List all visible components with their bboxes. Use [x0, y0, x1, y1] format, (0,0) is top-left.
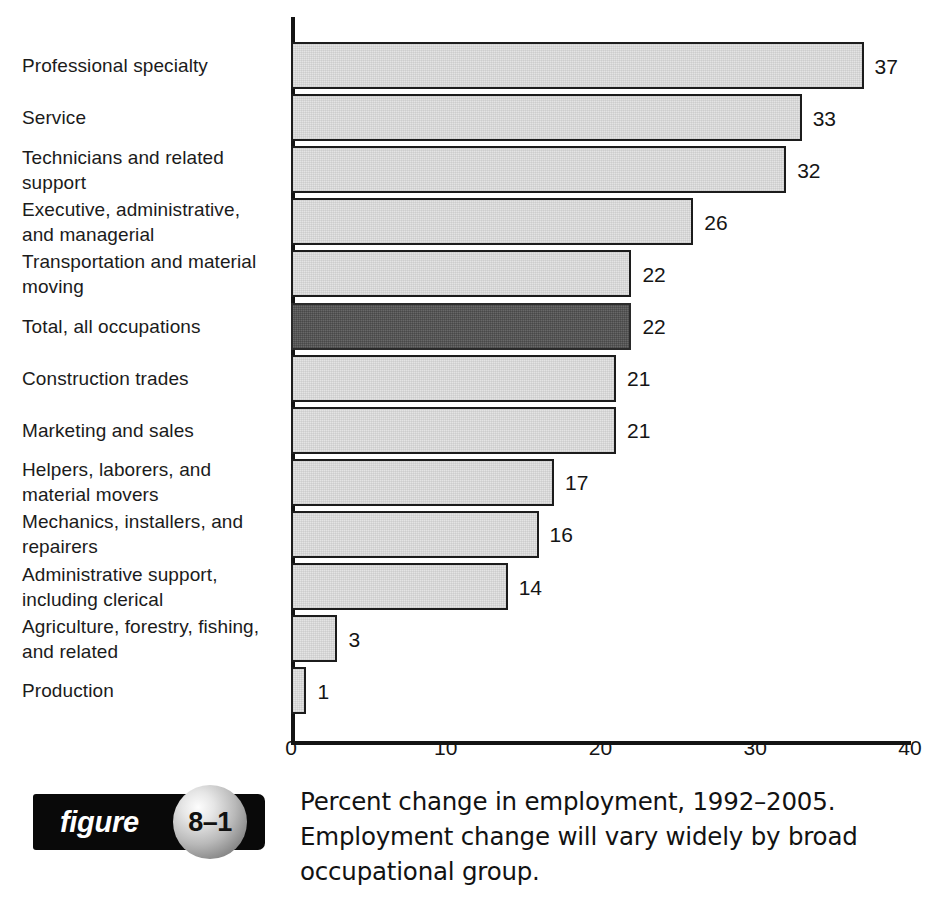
bar	[291, 459, 554, 506]
bar	[291, 407, 616, 454]
figure-badge-word: figure	[60, 805, 139, 839]
bar-value-label: 1	[317, 681, 329, 702]
figure-caption-block: figure 8–1 Percent change in employment,…	[0, 782, 945, 907]
category-label: Construction trades	[22, 366, 284, 391]
bar	[291, 250, 631, 297]
bar-value-label: 17	[565, 472, 588, 493]
bar	[291, 615, 337, 662]
bar-chart-figure: Professional specialtyServiceTechnicians…	[0, 0, 945, 780]
category-label: Helpers, laborers, and material movers	[22, 457, 284, 507]
category-label: Marketing and sales	[22, 418, 284, 443]
figure-badge-number: 8–1	[173, 785, 247, 859]
category-label: Professional specialty	[22, 53, 284, 78]
bar	[291, 667, 306, 714]
figure-caption-text: Percent change in employment, 1992–2005.…	[300, 784, 930, 889]
category-label: Technicians and related support	[22, 145, 284, 195]
figure-badge-sphere: 8–1	[173, 785, 247, 859]
figure-badge: figure 8–1	[33, 794, 265, 850]
bar	[291, 563, 508, 610]
x-tick-label: 0	[285, 736, 297, 760]
bar	[291, 42, 864, 89]
bar	[291, 94, 802, 141]
bar-value-label: 33	[813, 108, 836, 129]
category-label: Agriculture, forestry, fishing, and rela…	[22, 614, 284, 664]
bar-value-label: 22	[642, 316, 665, 337]
plot-area: 373332262222212117161431	[291, 17, 911, 745]
bar-value-label: 3	[348, 629, 360, 650]
bar-value-label: 26	[704, 212, 727, 233]
x-tick-label: 30	[744, 736, 767, 760]
bar-value-label: 21	[627, 368, 650, 389]
caption-line: Employment change will vary widely by br…	[300, 819, 930, 854]
bar-value-label: 21	[627, 420, 650, 441]
category-label: Transportation and material moving	[22, 249, 284, 299]
bar-value-label: 22	[642, 264, 665, 285]
category-label: Mechanics, installers, and repairers	[22, 509, 284, 559]
bar	[291, 511, 539, 558]
caption-line: Percent change in employment, 1992–2005.	[300, 784, 930, 819]
x-tick-label: 40	[898, 736, 921, 760]
category-label: Total, all occupations	[22, 314, 284, 339]
bar	[291, 303, 631, 350]
bar-value-label: 32	[797, 160, 820, 181]
category-label: Executive, administrative, and manageria…	[22, 197, 284, 247]
caption-line: occupational group.	[300, 854, 930, 889]
bar	[291, 355, 616, 402]
bar	[291, 146, 786, 193]
category-label: Service	[22, 105, 284, 130]
category-label: Administrative support, including cleric…	[22, 562, 284, 612]
bar-value-label: 37	[875, 56, 898, 77]
x-tick-label: 10	[434, 736, 457, 760]
bar	[291, 198, 693, 245]
x-tick-label: 20	[589, 736, 612, 760]
bar-value-label: 14	[519, 577, 542, 598]
bar-value-label: 16	[550, 524, 573, 545]
category-label: Production	[22, 678, 284, 703]
